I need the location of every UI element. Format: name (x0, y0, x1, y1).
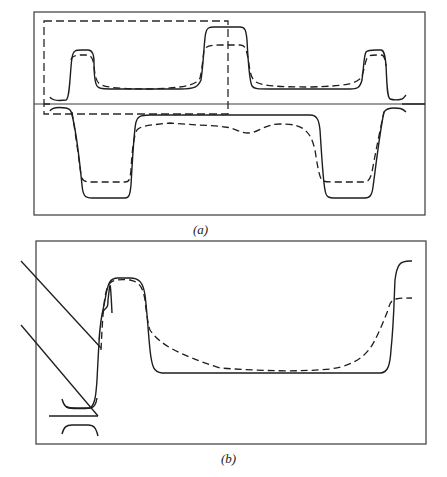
panel-b-frame (36, 241, 426, 444)
panel-a-lower-dashed-curve (72, 112, 384, 182)
panel-b (21, 241, 426, 444)
panel-b-diagonal-lower (21, 325, 98, 416)
panel-b-lower-bracket (62, 425, 98, 436)
panel-b-solid-curve (66, 261, 412, 409)
figure-canvas (0, 0, 447, 477)
panel-a-caption: (a) (193, 222, 208, 238)
panel-a (34, 12, 425, 215)
panel-b-caption: (b) (221, 451, 236, 467)
panel-a-lower-solid-curve (50, 107, 406, 198)
panel-b-diagonal-upper (21, 261, 101, 348)
